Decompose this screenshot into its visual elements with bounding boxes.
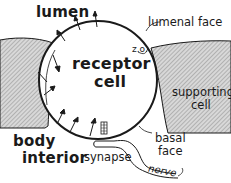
receptor-cell-label-line1: receptor [72,56,151,72]
synaptic-ribbon [101,122,107,134]
basal-face-leader [139,126,152,133]
supporting-cell-label-line2: cell [191,100,211,112]
basal-face-label-line2: face [158,146,183,158]
basal-face-label-line1: basal [155,133,186,145]
lumen-label: lumen [36,5,89,20]
supporting-cell-label-line1: supporting [172,87,231,99]
body-interior-label-line2: interior [22,151,87,166]
body-interior-label-line1: body [13,134,55,149]
receptor-cell-label-line2: cell [94,74,126,90]
zonula-occludens-label: z.o. [132,45,148,54]
lumenal-face-label: lumenal face [148,17,222,29]
synapse-label: synapse [84,152,132,164]
receptor-cell-diagram: lumen lumenal face z.o. receptor cell su… [0,0,231,183]
